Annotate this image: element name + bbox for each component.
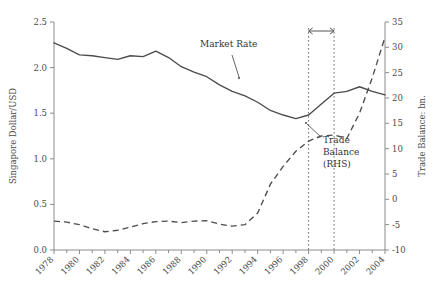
y-axis-left-tick-label: 1.0 [33,154,47,164]
x-axis-tick-label: 1990 [186,254,208,276]
x-axis-tick-label: 1998 [288,254,310,276]
annotation-trade-balance-label: (RHS) [323,159,351,169]
x-axis-tick-label: 2002 [339,254,361,276]
y-axis-right-tick-label: 35 [392,17,403,27]
y-axis-right-tick-label: 10 [392,144,403,154]
x-axis-tick-label: 1988 [160,254,182,276]
x-axis-tick-label: 1978 [33,254,55,276]
y-axis-left-tick-label: 1.5 [33,108,47,118]
y-axis-right-tick-label: 30 [392,42,403,52]
y-axis-left-tick-label: 0.0 [33,245,47,255]
annotation-market-rate-label: Market Rate [200,39,257,49]
y-axis-right-tick-label: 20 [392,93,403,103]
y-axis-left-tick-label: 2.0 [33,63,47,73]
y-axis-right-tick-label: 25 [392,68,403,78]
x-axis-tick-label: 1994 [237,254,259,276]
chart-container: 0.00.51.01.52.02.5-10-505101520253035197… [0,0,443,307]
y-axis-right-tick-label: -10 [392,245,406,255]
x-axis-tick-label: 1996 [262,254,284,276]
x-axis-tick-label: 1986 [135,254,157,276]
annotation-trade-balance-point [305,122,307,124]
annotation-market-rate-leader [232,55,239,77]
x-axis-tick-label: 2004 [364,254,386,276]
x-axis-tick-label: 2000 [313,254,335,276]
axes-group: 0.00.51.01.52.02.5-10-505101520253035197… [8,17,427,277]
y-axis-left-tick-label: 0.5 [33,199,47,209]
y-axis-right-tick-label: 0 [392,194,397,204]
y-axis-right-title: Trade Balance: bn. [417,95,427,177]
y-axis-left-tick-label: 2.5 [33,17,47,27]
y-axis-right-tick-label: 15 [392,118,403,128]
y-axis-left-title: Singapore Dollar/USD [8,88,18,184]
y-axis-right-tick-label: -5 [392,220,400,230]
x-axis-tick-label: 1992 [211,254,233,276]
annotation-trade-balance-label: Balance [323,147,359,157]
y-axis-right-tick-label: 5 [392,169,397,179]
annotation-trade-balance-leader [307,124,321,137]
x-axis-tick-label: 1980 [59,254,81,276]
line-chart: 0.00.51.01.52.02.5-10-505101520253035197… [0,0,443,307]
x-axis-tick-label: 1984 [109,254,131,276]
annotation-market-rate-point [238,77,240,79]
annotations-group: Market RateTradeBalance(RHS) [200,28,359,169]
x-axis-tick-label: 1982 [84,254,106,276]
annotation-trade-balance-label: Trade [323,135,350,145]
series-line-market-rate [54,43,385,119]
